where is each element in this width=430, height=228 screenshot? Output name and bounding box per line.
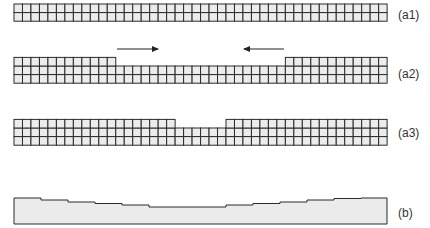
grid-cell bbox=[362, 4, 370, 13]
grid-cell bbox=[209, 13, 217, 22]
grid-cell bbox=[243, 66, 251, 75]
grid-cell bbox=[150, 119, 158, 128]
grid-cell bbox=[319, 66, 327, 75]
grid-cell bbox=[39, 75, 47, 84]
grid-cell bbox=[82, 75, 90, 84]
grid-cell bbox=[302, 128, 310, 137]
grid-cell bbox=[311, 75, 319, 84]
grid-cell bbox=[362, 66, 370, 75]
grid-cell bbox=[56, 119, 64, 128]
grid-cell bbox=[175, 128, 183, 137]
grid-cell bbox=[73, 137, 81, 146]
grid-cell bbox=[167, 66, 175, 75]
grid-cell bbox=[277, 4, 285, 13]
grid-cell bbox=[158, 119, 166, 128]
grid-cell bbox=[268, 13, 276, 22]
grid-cell bbox=[201, 137, 209, 146]
grid-cell bbox=[201, 13, 209, 22]
grid-cell bbox=[260, 66, 268, 75]
grid-cell bbox=[260, 75, 268, 84]
grid-cell bbox=[277, 128, 285, 137]
grid-cell bbox=[65, 75, 73, 84]
thickness-profile bbox=[14, 198, 387, 224]
grid-cell bbox=[370, 13, 378, 22]
panel-a3-grid bbox=[14, 119, 387, 145]
grid-cell bbox=[175, 75, 183, 84]
grid-cell bbox=[370, 4, 378, 13]
grid-cell bbox=[226, 119, 234, 128]
grid-cell bbox=[124, 13, 132, 22]
grid-cell bbox=[226, 128, 234, 137]
grid-cell bbox=[345, 13, 353, 22]
grid-cell bbox=[294, 57, 302, 66]
grid-cell bbox=[234, 137, 242, 146]
grid-cell bbox=[226, 13, 234, 22]
grid-cell bbox=[14, 13, 22, 22]
grid-cell bbox=[99, 128, 107, 137]
grid-cell bbox=[31, 4, 39, 13]
grid-cell bbox=[260, 137, 268, 146]
grid-cell bbox=[99, 4, 107, 13]
grid-cell bbox=[319, 4, 327, 13]
grid-cell bbox=[336, 4, 344, 13]
grid-cell bbox=[167, 137, 175, 146]
grid-cell bbox=[82, 57, 90, 66]
grid-cell bbox=[328, 66, 336, 75]
grid-cell bbox=[107, 75, 115, 84]
grid-cell bbox=[353, 128, 361, 137]
grid-cell bbox=[56, 128, 64, 137]
grid-cell bbox=[251, 119, 259, 128]
grid-cell bbox=[65, 128, 73, 137]
grid-cell bbox=[90, 13, 98, 22]
grid-cell bbox=[65, 4, 73, 13]
grid-cell bbox=[218, 137, 226, 146]
grid-cell bbox=[107, 137, 115, 146]
grid-cell bbox=[234, 119, 242, 128]
grid-cell bbox=[22, 75, 30, 84]
grid-cell bbox=[268, 128, 276, 137]
grid-cell bbox=[302, 119, 310, 128]
grid-cell bbox=[379, 57, 387, 66]
grid-cell bbox=[251, 75, 259, 84]
grid-cell bbox=[158, 4, 166, 13]
grid-cell bbox=[362, 137, 370, 146]
grid-cell bbox=[90, 137, 98, 146]
grid-cell bbox=[285, 4, 293, 13]
grid-cell bbox=[302, 57, 310, 66]
grid-cell bbox=[209, 75, 217, 84]
grid-cell bbox=[31, 119, 39, 128]
grid-cell bbox=[39, 128, 47, 137]
grid-cell bbox=[141, 75, 149, 84]
grid-cell bbox=[184, 13, 192, 22]
grid-cell bbox=[353, 119, 361, 128]
grid-cell bbox=[243, 137, 251, 146]
grid-cell bbox=[99, 75, 107, 84]
grid-cell bbox=[251, 4, 259, 13]
grid-cell bbox=[116, 128, 124, 137]
grid-cell bbox=[311, 4, 319, 13]
grid-cell bbox=[285, 13, 293, 22]
grid-cell bbox=[124, 119, 132, 128]
grid-cell bbox=[48, 137, 56, 146]
grid-cell bbox=[82, 128, 90, 137]
grid-cell bbox=[277, 119, 285, 128]
grid-cell bbox=[167, 4, 175, 13]
grid-cell bbox=[311, 57, 319, 66]
grid-cell bbox=[370, 137, 378, 146]
grid-cell bbox=[150, 4, 158, 13]
grid-cell bbox=[251, 66, 259, 75]
grid-cell bbox=[39, 13, 47, 22]
grid-cell bbox=[277, 75, 285, 84]
grid-cell bbox=[336, 75, 344, 84]
grid-cell bbox=[31, 137, 39, 146]
grid-cell bbox=[277, 137, 285, 146]
grid-cell bbox=[167, 75, 175, 84]
grid-cell bbox=[243, 128, 251, 137]
grid-cell bbox=[353, 4, 361, 13]
grid-cell bbox=[107, 66, 115, 75]
grid-cell bbox=[319, 13, 327, 22]
grid-cell bbox=[22, 57, 30, 66]
grid-cell bbox=[260, 4, 268, 13]
grid-cell bbox=[175, 4, 183, 13]
grid-cell bbox=[362, 57, 370, 66]
